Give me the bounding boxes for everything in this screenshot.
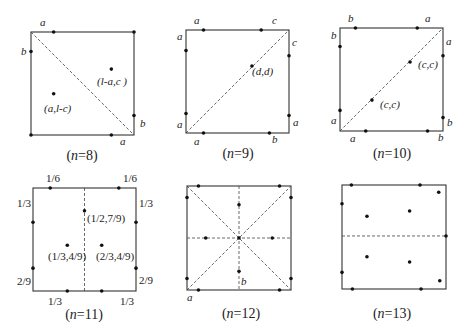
point-label: c <box>292 36 297 48</box>
point-label: (1/3,4/9) <box>48 250 87 263</box>
point-marker <box>408 60 412 64</box>
point-marker <box>134 220 138 224</box>
point-marker <box>441 54 445 58</box>
point-marker <box>185 277 189 281</box>
point-label: a <box>177 30 183 42</box>
point-marker <box>418 183 422 187</box>
point-marker <box>289 196 293 200</box>
panel-n8: ab(l-a,c )(a,l-c)ba(n=8) <box>21 16 146 164</box>
point-label: a <box>293 116 299 128</box>
point-marker <box>197 184 201 188</box>
point-marker <box>48 186 52 190</box>
point-label: a <box>40 16 46 28</box>
panel-n11: 1/61/61/31/3(1/2,7/9)(1/3,4/9)(2/3,4/9)2… <box>17 172 154 323</box>
point-marker <box>204 236 208 240</box>
point-label: a <box>194 135 200 147</box>
point-marker <box>441 116 445 120</box>
point-label: 1/6 <box>46 172 61 184</box>
point-marker <box>340 202 344 206</box>
point-marker <box>100 289 104 293</box>
point-label: a <box>187 291 193 303</box>
point-label: a <box>177 118 183 130</box>
point-marker <box>408 209 412 213</box>
point-marker <box>278 184 282 188</box>
point-marker <box>444 234 448 238</box>
point-marker <box>259 28 263 32</box>
point-label: b <box>438 131 444 143</box>
point-marker <box>426 129 430 133</box>
point-label: b <box>241 275 247 287</box>
point-marker <box>202 28 206 32</box>
point-label: a <box>350 132 356 144</box>
point-marker <box>437 190 441 194</box>
point-marker <box>29 133 33 137</box>
panel-n10: baba(c,c)(c,c)abab(n=10) <box>331 12 453 162</box>
point-marker <box>287 54 291 58</box>
panel-caption: (n=13) <box>373 306 412 322</box>
point-marker <box>338 45 342 49</box>
point-label: a <box>331 114 337 126</box>
point-marker <box>270 236 274 240</box>
point-marker <box>287 114 291 118</box>
point-marker <box>52 92 56 96</box>
point-label: 1/3 <box>120 295 135 307</box>
panel-figure: ab(l-a,c )(a,l-c)ba(n=8)acac(d,d)aaab(n=… <box>0 0 468 333</box>
point-label: b <box>348 12 354 24</box>
point-marker <box>83 209 87 213</box>
point-label: b <box>272 133 278 145</box>
panel-n13: (n=13) <box>340 183 448 322</box>
point-marker <box>110 67 114 71</box>
point-marker <box>134 266 138 270</box>
panel-caption: (n=11) <box>65 307 103 323</box>
point-label: a <box>446 35 452 47</box>
point-label: 1/3 <box>17 197 32 209</box>
panel-n9: acac(d,d)aaab(n=9) <box>177 14 299 162</box>
point-marker <box>184 112 188 116</box>
point-label: c <box>272 14 277 26</box>
point-marker <box>65 289 69 293</box>
point-label: 1/6 <box>123 172 138 184</box>
point-marker <box>185 196 189 200</box>
point-marker <box>65 243 69 247</box>
point-marker <box>184 49 188 53</box>
point-marker <box>237 203 241 207</box>
point-marker <box>419 287 423 291</box>
point-label: a <box>194 14 200 26</box>
point-marker <box>237 269 241 273</box>
point-label: a <box>120 135 126 147</box>
point-marker <box>408 260 412 264</box>
point-marker <box>31 266 35 270</box>
square-boundary <box>342 185 446 289</box>
point-marker <box>132 30 136 34</box>
point-marker <box>100 243 104 247</box>
point-label: 1/3 <box>139 197 154 209</box>
point-marker <box>365 214 369 218</box>
point-marker <box>370 98 374 102</box>
dashed-symmetry-line <box>186 30 289 133</box>
panel-caption: (n=9) <box>222 146 254 162</box>
dashed-symmetry-line <box>340 28 443 131</box>
point-label: (d,d) <box>252 65 273 78</box>
point-label: (l-a,c ) <box>97 75 127 88</box>
point-marker <box>415 26 419 30</box>
point-marker <box>268 131 272 135</box>
point-label: a <box>425 12 431 24</box>
point-marker <box>350 183 354 187</box>
point-label: 1/3 <box>48 295 63 307</box>
panel-caption: (n=10) <box>373 146 412 162</box>
point-marker <box>438 279 442 283</box>
panel-n12: ba(n=12) <box>185 184 293 322</box>
point-label: (c,c) <box>418 58 438 71</box>
point-marker <box>338 109 342 113</box>
point-label: (2/3,4/9) <box>96 250 135 263</box>
point-marker <box>289 277 293 281</box>
point-marker <box>52 30 56 34</box>
point-marker <box>29 50 33 54</box>
point-marker <box>31 220 35 224</box>
panel-caption: (n=12) <box>222 306 261 322</box>
point-marker <box>351 287 355 291</box>
point-marker <box>237 236 241 240</box>
point-marker <box>365 255 369 259</box>
point-marker <box>202 131 206 135</box>
point-marker <box>197 288 201 292</box>
